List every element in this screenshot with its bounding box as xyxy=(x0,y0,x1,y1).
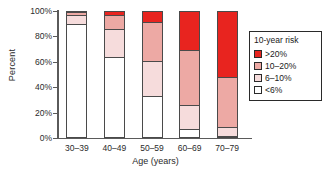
x-axis-ticks: 30–3940–4950–5960–6970–79 xyxy=(58,141,253,157)
bar-segment xyxy=(104,15,125,29)
legend-item[interactable]: <6% xyxy=(254,84,318,95)
bar-group xyxy=(217,11,238,138)
legend-item[interactable]: >20% xyxy=(254,48,318,59)
bar-group xyxy=(66,11,87,138)
bar-group xyxy=(142,11,163,138)
y-tick-label: 40% xyxy=(35,83,52,92)
y-tick-label: 80% xyxy=(35,32,52,41)
legend-item-label: >20% xyxy=(265,49,287,59)
bar-segment xyxy=(66,15,87,24)
plot-area xyxy=(58,11,246,138)
y-tick-label: 0% xyxy=(40,134,52,143)
y-axis-label: Percent xyxy=(7,30,17,100)
bar-segment xyxy=(217,11,238,77)
x-axis-label: Age (years) xyxy=(58,156,253,166)
legend-swatch-icon xyxy=(254,74,262,82)
bar-segment xyxy=(179,105,200,129)
legend-item[interactable]: 6–10% xyxy=(254,72,318,83)
bar-group xyxy=(179,11,200,138)
bar-segment xyxy=(142,22,163,60)
legend-item-label: 6–10% xyxy=(265,73,291,83)
legend-title: 10-year risk xyxy=(254,35,318,46)
y-tick-label: 20% xyxy=(35,108,52,117)
stacked-bar[interactable] xyxy=(179,11,200,138)
bar-segment xyxy=(179,50,200,105)
bar-segment xyxy=(217,136,238,138)
stacked-bar[interactable] xyxy=(66,11,87,138)
y-axis-ticks: 0%20%40%60%80%100% xyxy=(20,6,58,146)
y-axis-line xyxy=(57,10,59,139)
legend: 10-year risk >20%10–20%6–10%<6% xyxy=(249,31,322,101)
bar-segment xyxy=(217,127,238,136)
legend-swatch-icon xyxy=(254,50,262,58)
bar-segment xyxy=(142,96,163,138)
bar-segment xyxy=(104,57,125,138)
bar-segment xyxy=(179,11,200,50)
bar-segment xyxy=(217,77,238,128)
bar-group xyxy=(104,11,125,138)
bar-segment xyxy=(104,29,125,57)
bar-segment xyxy=(142,11,163,22)
legend-swatch-icon xyxy=(254,86,262,94)
y-tick-label: 60% xyxy=(35,58,52,67)
stacked-bar[interactable] xyxy=(217,11,238,138)
legend-items: >20%10–20%6–10%<6% xyxy=(254,48,318,95)
legend-item-label: <6% xyxy=(265,85,282,95)
x-tick-label: 70–79 xyxy=(205,143,249,153)
legend-item-label: 10–20% xyxy=(265,61,296,71)
bar-segment xyxy=(179,129,200,138)
bar-segment xyxy=(66,24,87,138)
legend-swatch-icon xyxy=(254,62,262,70)
y-tick-label: 100% xyxy=(30,7,52,16)
legend-item[interactable]: 10–20% xyxy=(254,60,318,71)
stacked-bar[interactable] xyxy=(142,11,163,138)
stacked-bar-chart: Percent 0%20%40%60%80%100% 30–3940–4950–… xyxy=(0,0,325,176)
stacked-bar[interactable] xyxy=(104,11,125,138)
bar-segment xyxy=(142,61,163,97)
